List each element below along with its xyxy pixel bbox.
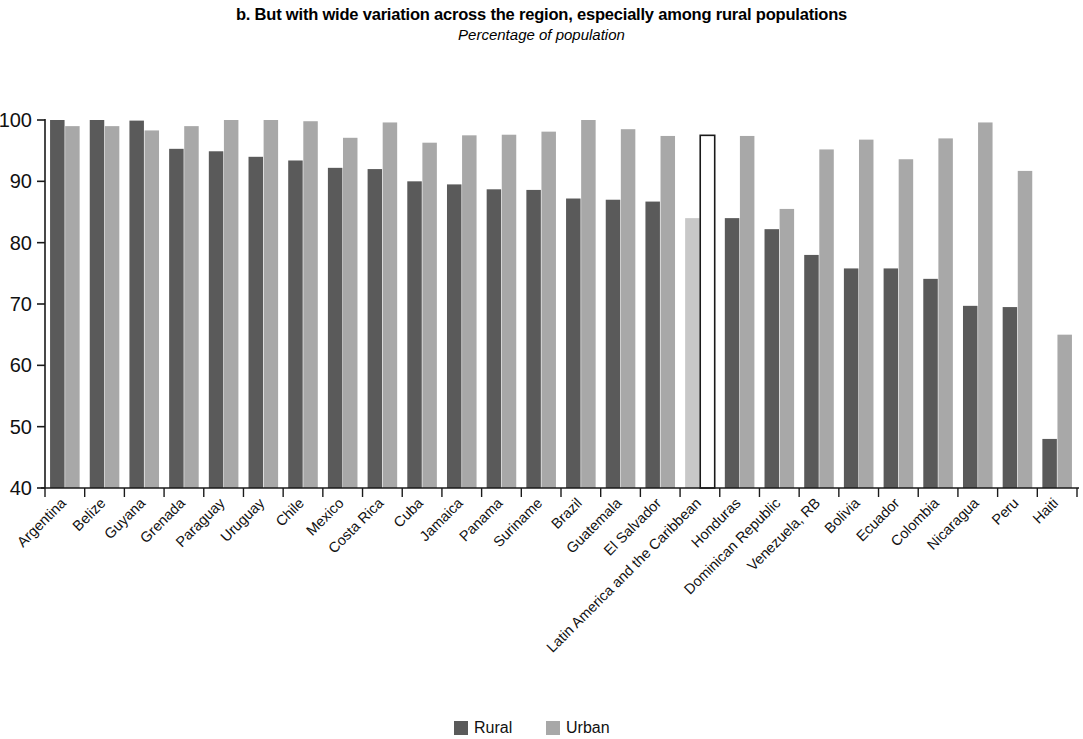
bar-rural bbox=[645, 202, 659, 488]
legend-label: Rural bbox=[474, 719, 512, 736]
bar-rural bbox=[249, 157, 263, 488]
bar-rural bbox=[407, 181, 421, 488]
chart-subtitle: Percentage of population bbox=[0, 25, 1083, 45]
x-axis-category-label: Chile bbox=[272, 495, 307, 530]
bar-urban bbox=[184, 126, 198, 488]
x-axis-category-label: Brazil bbox=[548, 495, 585, 532]
bar-urban bbox=[65, 126, 79, 488]
x-axis-category-label: Cuba bbox=[390, 494, 426, 530]
bar-urban bbox=[661, 136, 675, 488]
bar-rural bbox=[685, 218, 699, 488]
bar-urban bbox=[422, 143, 436, 488]
bar-urban bbox=[541, 132, 555, 488]
legend-swatch bbox=[546, 721, 560, 735]
bar-rural bbox=[288, 160, 302, 488]
bar-rural bbox=[368, 169, 382, 488]
bar-urban bbox=[581, 120, 595, 488]
x-axis-category-label: Haiti bbox=[1029, 495, 1061, 527]
bar-rural bbox=[765, 229, 779, 488]
bar-urban bbox=[740, 136, 754, 488]
bar-urban bbox=[621, 129, 635, 488]
bar-urban bbox=[343, 138, 357, 488]
bar-urban bbox=[700, 135, 714, 488]
bar-rural bbox=[1003, 307, 1017, 488]
bar-rural bbox=[606, 200, 620, 488]
y-axis-tick-label: 50 bbox=[10, 416, 32, 438]
bar-urban bbox=[978, 122, 992, 488]
bar-rural bbox=[884, 268, 898, 488]
chart-legend: RuralUrban bbox=[454, 719, 610, 736]
bar-urban bbox=[859, 140, 873, 488]
bar-urban bbox=[145, 130, 159, 488]
bar-urban bbox=[224, 120, 238, 488]
bar-rural bbox=[209, 151, 223, 488]
bar-urban bbox=[899, 159, 913, 488]
bar-urban bbox=[819, 149, 833, 488]
x-axis-category-label: Venezuela, RB bbox=[744, 495, 823, 574]
bar-rural bbox=[487, 189, 501, 488]
bar-rural bbox=[804, 255, 818, 488]
bar-rural bbox=[844, 268, 858, 488]
bar-rural bbox=[963, 306, 977, 488]
bar-rural bbox=[328, 168, 342, 488]
bar-rural bbox=[90, 120, 104, 488]
bar-urban bbox=[105, 126, 119, 488]
x-axis-category-label: Argentina bbox=[14, 494, 70, 550]
bar-urban bbox=[264, 120, 278, 488]
x-axis-category-label: Uruguay bbox=[217, 494, 268, 545]
bar-rural bbox=[447, 184, 461, 488]
legend-label: Urban bbox=[566, 719, 610, 736]
bar-urban bbox=[1018, 171, 1032, 488]
bar-rural bbox=[526, 190, 540, 488]
y-axis-tick-label: 40 bbox=[10, 477, 32, 499]
bar-rural bbox=[169, 149, 183, 488]
x-axis-category-label: Peru bbox=[989, 495, 1022, 528]
bar-rural bbox=[129, 121, 143, 488]
bar-chart: 405060708090100 ArgentinaBelizeGuyanaGre… bbox=[0, 45, 1083, 739]
y-axis-tick-label: 60 bbox=[10, 354, 32, 376]
bar-rural bbox=[566, 199, 580, 488]
legend-swatch bbox=[454, 721, 468, 735]
bar-rural bbox=[1042, 439, 1056, 488]
y-axis-tick-label: 100 bbox=[0, 109, 32, 131]
y-axis-tick-label: 70 bbox=[10, 293, 32, 315]
y-axis-tick-label: 90 bbox=[10, 170, 32, 192]
bar-urban bbox=[502, 135, 516, 488]
y-axis-tick-label: 80 bbox=[10, 232, 32, 254]
bar-urban bbox=[780, 209, 794, 488]
bar-urban bbox=[462, 135, 476, 488]
bar-urban bbox=[303, 121, 317, 488]
bars-group bbox=[50, 120, 1072, 488]
x-axis: ArgentinaBelizeGuyanaGrenadaParaguayUrug… bbox=[14, 488, 1079, 655]
bar-rural bbox=[923, 279, 937, 488]
title-block: b. But with wide variation across the re… bbox=[0, 0, 1083, 45]
chart-title: b. But with wide variation across the re… bbox=[0, 4, 1083, 24]
bar-rural bbox=[50, 120, 64, 488]
bar-urban bbox=[1057, 335, 1071, 488]
bar-urban bbox=[383, 122, 397, 488]
bar-urban bbox=[938, 138, 952, 488]
bar-rural bbox=[725, 218, 739, 488]
y-axis: 405060708090100 bbox=[0, 109, 45, 499]
